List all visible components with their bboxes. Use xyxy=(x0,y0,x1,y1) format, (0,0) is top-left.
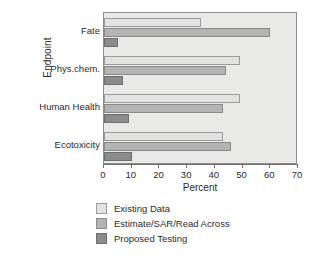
bar-human-health-estimate-sar-read-across xyxy=(104,104,223,113)
x-tick-label-0: 0 xyxy=(88,169,118,180)
chart-legend: Existing DataEstimate/SAR/Read AcrossPro… xyxy=(96,201,306,246)
x-tick-label-50: 50 xyxy=(227,169,257,180)
legend-item-1: Estimate/SAR/Read Across xyxy=(96,216,306,231)
y-tick-label-fate: Fate xyxy=(18,25,100,36)
x-tick-20 xyxy=(158,164,159,168)
x-tick-60 xyxy=(269,164,270,168)
x-tick-30 xyxy=(186,164,187,168)
x-tick-label-60: 60 xyxy=(254,169,284,180)
y-tick-label-human-health: Human Health xyxy=(18,101,100,112)
x-tick-70 xyxy=(297,164,298,168)
x-tick-0 xyxy=(103,164,104,168)
x-tick-10 xyxy=(131,164,132,168)
bar-phys-chem--proposed-testing xyxy=(104,76,123,85)
x-axis-line xyxy=(103,164,297,165)
x-tick-label-30: 30 xyxy=(171,169,201,180)
legend-item-2: Proposed Testing xyxy=(96,231,306,246)
x-tick-40 xyxy=(214,164,215,168)
bar-fate-estimate-sar-read-across xyxy=(104,28,270,37)
x-tick-50 xyxy=(242,164,243,168)
bar-ecotoxicity-estimate-sar-read-across xyxy=(104,142,231,151)
legend-swatch-icon-0 xyxy=(96,203,107,214)
legend-swatch-icon-2 xyxy=(96,233,107,244)
y-tick-label-physchem: Phys.chem. xyxy=(18,63,100,74)
legend-swatch-icon-1 xyxy=(96,218,107,229)
bar-human-health-existing-data xyxy=(104,94,240,103)
x-tick-label-70: 70 xyxy=(282,169,312,180)
x-axis-title: Percent xyxy=(103,182,297,193)
y-tick-label-ecotoxicity: Ecotoxicity xyxy=(18,139,100,150)
bar-phys-chem--existing-data xyxy=(104,56,240,65)
bar-phys-chem--estimate-sar-read-across xyxy=(104,66,226,75)
bar-ecotoxicity-proposed-testing xyxy=(104,152,132,161)
legend-label-0: Existing Data xyxy=(114,203,170,214)
bar-fate-proposed-testing xyxy=(104,38,118,47)
legend-label-2: Proposed Testing xyxy=(114,233,187,244)
bar-human-health-proposed-testing xyxy=(104,114,129,123)
x-tick-label-10: 10 xyxy=(116,169,146,180)
plot-area xyxy=(103,12,297,164)
bar-fate-existing-data xyxy=(104,18,201,27)
bar-ecotoxicity-existing-data xyxy=(104,132,223,141)
y-axis-tick-labels: Fate Phys.chem. Human Health Ecotoxicity xyxy=(18,12,100,164)
x-tick-label-40: 40 xyxy=(199,169,229,180)
grouped-bar-chart: Endpoint Fate Phys.chem. Human Health Ec… xyxy=(0,0,324,256)
legend-label-1: Estimate/SAR/Read Across xyxy=(114,218,230,229)
x-tick-label-20: 20 xyxy=(143,169,173,180)
legend-item-0: Existing Data xyxy=(96,201,306,216)
